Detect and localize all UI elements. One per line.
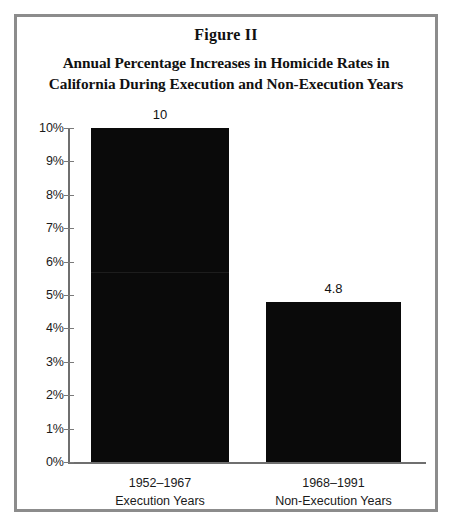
bar — [266, 302, 401, 462]
y-axis-tick-label: 4% — [20, 322, 64, 334]
x-axis-category-label: 1968–1991Non-Execution Years — [236, 474, 431, 510]
y-axis-tick — [64, 295, 74, 296]
x-axis-line — [68, 462, 426, 464]
y-axis-tick — [64, 195, 74, 196]
y-axis-tick — [64, 328, 74, 329]
bar — [91, 128, 229, 462]
figure-frame: Figure II Annual Percentage Increases in… — [14, 14, 438, 512]
y-axis-tick-label: 10% — [20, 122, 64, 134]
y-axis-tick — [64, 228, 74, 229]
y-axis-tick-label: 1% — [20, 423, 64, 435]
category-range: 1952–1967 — [61, 474, 259, 492]
y-axis-tick-label: 7% — [20, 222, 64, 234]
y-axis-tick-label: 2% — [20, 389, 64, 401]
category-description: Non-Execution Years — [236, 492, 431, 510]
scan-artifact-line — [91, 272, 229, 273]
category-description: Execution Years — [61, 492, 259, 510]
y-axis-tick — [64, 429, 74, 430]
y-axis-tick — [64, 395, 74, 396]
y-axis-tick-label: 5% — [20, 289, 64, 301]
y-axis-tick-label: 8% — [20, 189, 64, 201]
y-axis-tick — [64, 362, 74, 363]
y-axis-tick-label: 3% — [20, 356, 64, 368]
y-axis-tick-label: 0% — [20, 456, 64, 468]
y-axis-tick-label: 6% — [20, 256, 64, 268]
y-axis-tick — [64, 161, 74, 162]
y-axis-tick-label: 9% — [20, 155, 64, 167]
y-axis-tick — [64, 128, 74, 129]
y-axis-tick — [64, 262, 74, 263]
bar-value-label: 4.8 — [266, 282, 401, 296]
plot-area: 0%1%2%3%4%5%6%7%8%9%10% 104.8 1952–1967E… — [17, 17, 435, 509]
y-axis-tick — [64, 462, 74, 463]
category-range: 1968–1991 — [236, 474, 431, 492]
bar-value-label: 10 — [91, 108, 229, 122]
x-axis-category-label: 1952–1967Execution Years — [61, 474, 259, 510]
